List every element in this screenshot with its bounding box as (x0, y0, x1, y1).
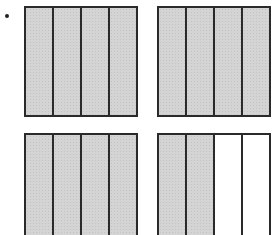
shaded-part (54, 8, 82, 115)
shaded-part (159, 8, 187, 115)
shaded-part (26, 8, 54, 115)
shaded-part (26, 135, 54, 235)
shaded-part (82, 8, 110, 115)
shaded-part (159, 135, 187, 235)
fraction-box-bottom-left (24, 133, 138, 235)
fraction-box-top-right (157, 6, 271, 117)
shaded-part (110, 135, 136, 235)
unshaded-part (215, 135, 243, 235)
fraction-box-top-left (24, 6, 138, 117)
shaded-part (54, 135, 82, 235)
unshaded-part (243, 135, 269, 235)
shaded-part (187, 8, 215, 115)
shaded-part (187, 135, 215, 235)
shaded-part (82, 135, 110, 235)
shaded-part (215, 8, 243, 115)
fraction-box-bottom-right (157, 133, 271, 235)
shaded-part (110, 8, 136, 115)
shaded-part (243, 8, 269, 115)
list-bullet (5, 14, 9, 18)
